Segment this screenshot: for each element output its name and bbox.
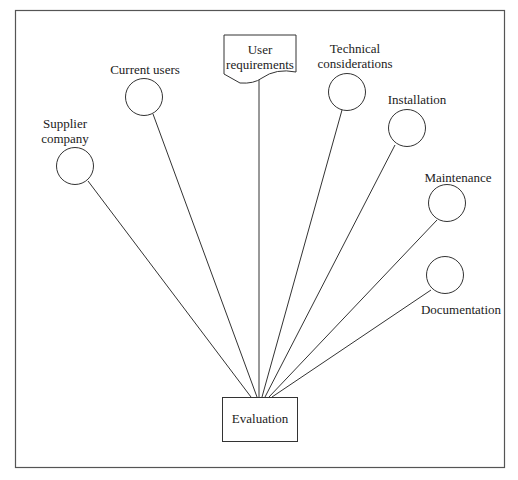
technical-label-line1: Technical	[300, 41, 410, 56]
current-users-label: Current users	[90, 62, 200, 77]
line-installation	[265, 145, 395, 397]
user-requirements-line1: User	[224, 42, 296, 57]
installation-label: Installation	[362, 92, 472, 107]
technical-label: Technical considerations	[300, 41, 410, 71]
documentation-circle[interactable]	[427, 257, 464, 294]
documentation-label: Documentation	[406, 302, 516, 317]
supplier-label: Supplier company	[22, 116, 108, 146]
line-current-users	[153, 114, 257, 397]
current-users-circle[interactable]	[126, 79, 163, 116]
connector-lines	[88, 80, 437, 397]
maintenance-circle[interactable]	[429, 185, 466, 222]
line-supplier	[88, 181, 251, 397]
evaluation-label: Evaluation	[222, 411, 298, 426]
user-requirements-label: User requirements	[224, 42, 296, 72]
supplier-circle[interactable]	[57, 148, 94, 185]
user-requirements-line2: requirements	[224, 57, 296, 72]
maintenance-label: Maintenance	[408, 170, 508, 185]
diagram-canvas	[0, 0, 518, 480]
line-technical	[262, 110, 342, 397]
technical-label-line2: considerations	[300, 56, 410, 71]
installation-circle[interactable]	[389, 110, 426, 147]
supplier-label-line1: Supplier	[22, 116, 108, 131]
technical-circle[interactable]	[329, 74, 366, 111]
supplier-label-line2: company	[22, 131, 108, 146]
